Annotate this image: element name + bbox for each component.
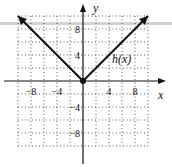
svg-text:4: 4 [75, 50, 80, 61]
svg-text:4: 4 [107, 86, 112, 97]
svg-text:8: 8 [75, 24, 80, 35]
function-label: h(x) [112, 52, 131, 66]
y-axis-label: y [92, 1, 99, 15]
x-axis-label: x [157, 88, 164, 102]
svg-text:−4: −4 [52, 86, 63, 97]
graph-canvas: y x −8−44884−4−8 h(x) [0, 0, 172, 167]
svg-text:−8: −8 [26, 86, 37, 97]
vertex-point [80, 78, 86, 84]
svg-text:−8: −8 [69, 128, 80, 139]
x-axis-arrow-icon [158, 78, 166, 84]
svg-text:−4: −4 [69, 102, 80, 113]
y-axis-arrow-icon [80, 4, 86, 12]
svg-text:8: 8 [133, 86, 138, 97]
